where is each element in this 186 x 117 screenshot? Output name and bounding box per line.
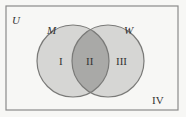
region-ii-label: II xyxy=(86,55,94,67)
universe-label: U xyxy=(12,14,21,26)
venn-diagram: U M W I II III IV xyxy=(0,0,186,117)
region-iv-label: IV xyxy=(152,94,164,106)
region-iii-label: III xyxy=(116,55,127,67)
set-m-label: M xyxy=(46,24,57,36)
set-w-label: W xyxy=(124,24,134,36)
region-i-label: I xyxy=(59,55,63,67)
